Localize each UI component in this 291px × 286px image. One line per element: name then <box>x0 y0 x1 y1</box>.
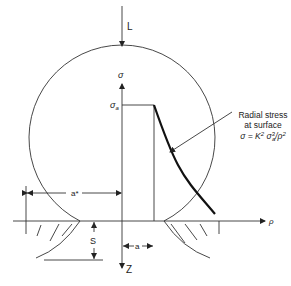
surface-line: ρ <box>13 217 274 226</box>
a-label: a <box>135 242 140 251</box>
sigma-axis-label: σ <box>118 70 124 80</box>
radial-stress-annotation: Radial stress at surface σ = K2 σ3a/ρ2 <box>170 110 288 152</box>
load-arrow: L <box>122 6 133 46</box>
a-star-dimension: a* <box>26 186 121 221</box>
s-dimension: S <box>90 222 97 259</box>
a-star-label: a* <box>71 189 79 198</box>
rho-axis-label: ρ <box>268 217 274 226</box>
load-label: L <box>127 21 133 32</box>
stress-distribution: σa <box>110 100 215 221</box>
surface-deformation <box>26 221 219 260</box>
s-label: S <box>90 236 96 246</box>
a-dimension: a <box>123 242 153 251</box>
svg-text:at surface: at surface <box>244 120 282 130</box>
svg-text:σa: σa <box>110 100 119 111</box>
svg-text:σ = K2 σ3a/ρ2: σ = K2 σ3a/ρ2 <box>240 131 286 142</box>
radial-stress-curve <box>154 105 215 214</box>
sigma-z-axis: σ Z <box>118 70 132 275</box>
contact-stress-diagram: L ρ σ Z σa Radial stress <box>0 0 291 286</box>
svg-text:Radial stress: Radial stress <box>238 110 287 120</box>
z-axis-label: Z <box>126 264 132 275</box>
